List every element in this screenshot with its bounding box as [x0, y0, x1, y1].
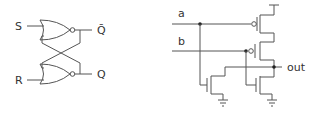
wire-a-to-nmos	[200, 24, 207, 85]
label-q: Q	[97, 68, 106, 81]
nmos-b-source	[260, 94, 272, 100]
nmos-a-source	[211, 94, 223, 100]
label-b: b	[178, 35, 185, 48]
ground-icon	[218, 100, 228, 106]
ground-icon	[267, 100, 277, 106]
nor-gate-top	[40, 20, 70, 40]
pmos-b-bubble	[249, 49, 254, 54]
label-r: R	[15, 74, 23, 87]
junction-out	[272, 65, 276, 69]
label-out: out	[287, 61, 306, 74]
pmos-series-link	[260, 33, 274, 42]
nor-bubble-bottom	[70, 72, 75, 77]
pmos-b-drain	[260, 60, 274, 77]
pmos-a-source	[260, 5, 274, 15]
label-qbar: Q̄	[97, 24, 106, 37]
pmos-a-bubble	[252, 22, 257, 27]
label-s: S	[15, 20, 22, 33]
diagram-canvas: S Q̄ Q R a b	[0, 0, 316, 113]
label-a: a	[178, 7, 185, 20]
nmos-a-drain	[211, 67, 225, 76]
cmos-nor: a b out	[172, 5, 306, 106]
sr-latch: S Q̄ Q R	[15, 20, 106, 87]
nor-bubble-top	[70, 28, 75, 33]
nor-gate-bottom	[40, 64, 70, 84]
